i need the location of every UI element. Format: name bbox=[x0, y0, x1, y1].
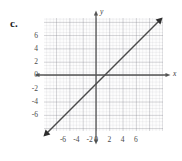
graph-figure: c. 6 4 2 0 -2 -4 -6 -6 -4 -2 0 2 4 6 bbox=[0, 0, 182, 161]
x-tick-label-neg4: -4 bbox=[69, 136, 83, 144]
x-tick-label-0: 0 bbox=[92, 136, 101, 144]
y-tick-label-neg4: -4 bbox=[24, 98, 38, 106]
y-tick-label-0: 0 bbox=[26, 71, 38, 79]
x-tick-label-4: 4 bbox=[118, 136, 127, 144]
x-tick-label-2: 2 bbox=[105, 136, 114, 144]
x-axis bbox=[35, 73, 171, 77]
y-axis bbox=[94, 11, 98, 145]
x-tick-label-6: 6 bbox=[131, 136, 140, 144]
y-tick-label-2: 2 bbox=[26, 58, 38, 66]
y-tick-label-neg6: -6 bbox=[24, 111, 38, 119]
y-tick-label-6: 6 bbox=[26, 32, 38, 40]
x-tick-label-neg6: -6 bbox=[56, 136, 70, 144]
y-tick-label-4: 4 bbox=[26, 45, 38, 53]
y-tick-label-neg2: -2 bbox=[24, 85, 38, 93]
y-axis-label: y bbox=[100, 8, 103, 16]
x-axis-label: x bbox=[173, 70, 176, 78]
plotted-line-y-equals-x bbox=[43, 17, 162, 136]
